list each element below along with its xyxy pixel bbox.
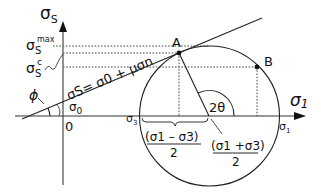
x-axis-label: σ1 xyxy=(290,90,308,111)
center-denominator: 2 xyxy=(232,155,240,169)
sigma0-arc xyxy=(56,104,60,116)
sigma3-label: σ3 xyxy=(126,112,137,127)
max-shear-sup: max xyxy=(37,35,55,44)
point-a-marker xyxy=(177,51,182,56)
y-axis-arrow-icon xyxy=(59,21,67,32)
critical-shear-sup: c xyxy=(37,57,42,67)
mohr-circle-diagram: σS σS max σS c ϕ σ0 0 σ3 σ1 σ1 σS= σ0 + … xyxy=(0,0,321,194)
radius-denominator: 2 xyxy=(170,146,178,160)
sigma0-label: σ0 xyxy=(69,100,83,116)
failure-envelope-equation: σS= σ0 + μσn xyxy=(64,53,155,102)
center-numerator: (σ1 +σ3) xyxy=(211,139,265,153)
point-b-marker xyxy=(255,65,260,70)
phi-leader xyxy=(38,98,44,104)
radius-numerator: (σ1 – σ3) xyxy=(145,130,198,144)
x-axis-arrow-icon xyxy=(294,112,306,120)
y-axis-label: σS xyxy=(40,3,58,26)
phi-arc xyxy=(48,108,50,116)
radius-brace xyxy=(142,118,208,126)
point-a-label: A xyxy=(172,35,181,50)
critical-shear-leader xyxy=(45,54,63,70)
phi-label: ϕ xyxy=(29,87,38,103)
sigma1-tick-label: σ1 xyxy=(279,120,290,135)
origin-label: 0 xyxy=(65,119,73,134)
radius-line xyxy=(179,53,209,116)
center-label-leader xyxy=(211,119,222,134)
two-theta-label: 2θ xyxy=(209,100,225,115)
point-b-label: B xyxy=(264,54,273,69)
